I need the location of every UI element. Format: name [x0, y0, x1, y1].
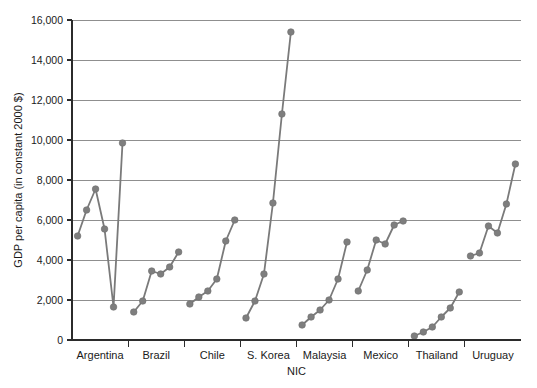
x-tick-label-malaysia: Malaysia — [303, 349, 347, 361]
data-point — [175, 249, 182, 256]
data-point — [196, 294, 203, 301]
y-tick-label: 0 — [57, 334, 63, 346]
y-tick-label: 8,000 — [37, 174, 63, 186]
gdp-per-capita-chart: 02,0004,0006,0008,00010,00012,00014,0001… — [0, 0, 537, 388]
x-axis-title: NIC — [287, 365, 306, 377]
y-tick-label: 6,000 — [37, 214, 63, 226]
x-tick-label-s-korea: S. Korea — [247, 349, 291, 361]
data-point — [261, 271, 268, 278]
data-point — [503, 201, 510, 208]
x-tick-label-mexico: Mexico — [363, 349, 398, 361]
x-tick-label-chile: Chile — [200, 349, 225, 361]
data-point — [205, 288, 212, 295]
data-point — [512, 161, 519, 168]
data-point — [83, 207, 90, 214]
data-point — [130, 309, 137, 316]
x-tick-label-thailand: Thailand — [416, 349, 458, 361]
data-point — [270, 200, 277, 207]
data-point — [456, 289, 463, 296]
data-point — [139, 298, 146, 305]
chart-background — [0, 0, 537, 388]
data-point — [157, 271, 164, 278]
chart-canvas: 02,0004,0006,0008,00010,00012,00014,0001… — [0, 0, 537, 388]
x-tick-label-argentina: Argentina — [77, 349, 125, 361]
data-point — [288, 29, 295, 36]
data-point — [438, 314, 445, 321]
y-tick-label: 16,000 — [31, 14, 63, 26]
data-point — [74, 233, 81, 240]
y-tick-label: 14,000 — [31, 54, 63, 66]
data-point — [214, 276, 221, 283]
data-point — [382, 241, 389, 248]
data-point — [148, 268, 155, 275]
data-point — [187, 301, 194, 308]
data-point — [355, 288, 362, 295]
y-tick-label: 2,000 — [37, 294, 63, 306]
data-point — [308, 314, 315, 321]
data-point — [344, 239, 351, 246]
data-point — [494, 230, 501, 237]
data-point — [299, 322, 306, 329]
data-point — [110, 304, 117, 311]
data-point — [335, 276, 342, 283]
data-point — [317, 307, 324, 314]
y-tick-label: 12,000 — [31, 94, 63, 106]
data-point — [326, 297, 333, 304]
data-point — [411, 333, 418, 340]
data-point — [92, 186, 99, 193]
data-point — [373, 237, 380, 244]
y-tick-label: 4,000 — [37, 254, 63, 266]
data-point — [252, 298, 259, 305]
data-point — [279, 111, 286, 118]
data-point — [222, 238, 229, 245]
y-tick-label: 10,000 — [31, 134, 63, 146]
data-point — [364, 267, 371, 274]
data-point — [243, 315, 250, 322]
data-point — [231, 217, 238, 224]
x-tick-label-brazil: Brazil — [142, 349, 170, 361]
y-axis-title: GDP per capita (in constant 2000 $) — [12, 92, 24, 267]
data-point — [101, 226, 108, 233]
data-point — [391, 222, 398, 229]
data-point — [467, 253, 474, 260]
x-tick-label-uruguay: Uruguay — [472, 349, 514, 361]
data-point — [420, 329, 427, 336]
data-point — [119, 140, 126, 147]
data-point — [429, 324, 436, 331]
data-point — [400, 218, 407, 225]
data-point — [447, 305, 454, 312]
data-point — [476, 250, 483, 257]
data-point — [166, 264, 173, 271]
data-point — [485, 223, 492, 230]
